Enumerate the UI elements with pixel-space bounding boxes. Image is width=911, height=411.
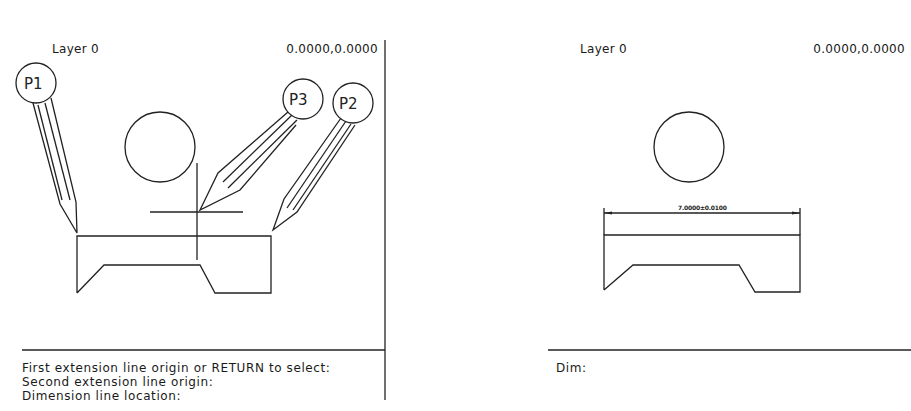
part-outline[interactable] (77, 236, 271, 293)
right-drawing-panel: 7.0000±0.0100 Layer 0 0.0000,0.0000 Dim: (520, 0, 911, 411)
dimension-arrow-left-icon (604, 212, 612, 215)
crosshair-cursor-icon (150, 163, 243, 260)
p2-label: P2 (339, 95, 358, 113)
command-line-1: First extension line origin or RETURN to… (22, 361, 330, 375)
layer-label: Layer 0 (580, 42, 627, 56)
command-prompt[interactable]: Dim: (556, 361, 587, 375)
linear-dimension[interactable] (604, 208, 800, 235)
pencil-p2-icon (273, 83, 373, 230)
dimension-text: 7.0000±0.0100 (678, 204, 727, 211)
command-line-3: Dimension line location: (22, 389, 181, 403)
p1-label: P1 (24, 75, 43, 93)
circle-entity[interactable] (125, 112, 195, 182)
part-outline[interactable] (604, 235, 800, 292)
p3-label: P3 (289, 91, 308, 109)
coordinate-display: 0.0000,0.0000 (286, 42, 378, 56)
circle-entity[interactable] (654, 112, 724, 182)
command-line-2: Second extension line origin: (22, 375, 213, 389)
coordinate-display: 0.0000,0.0000 (813, 42, 905, 56)
left-drawing-panel: P1 P3 P2 Layer 0 0.0000,0.0000 First ext… (0, 0, 400, 411)
layer-label: Layer 0 (52, 42, 99, 56)
dimension-arrow-right-icon (792, 212, 800, 215)
left-drawing-canvas[interactable]: P1 P3 P2 (0, 0, 400, 411)
